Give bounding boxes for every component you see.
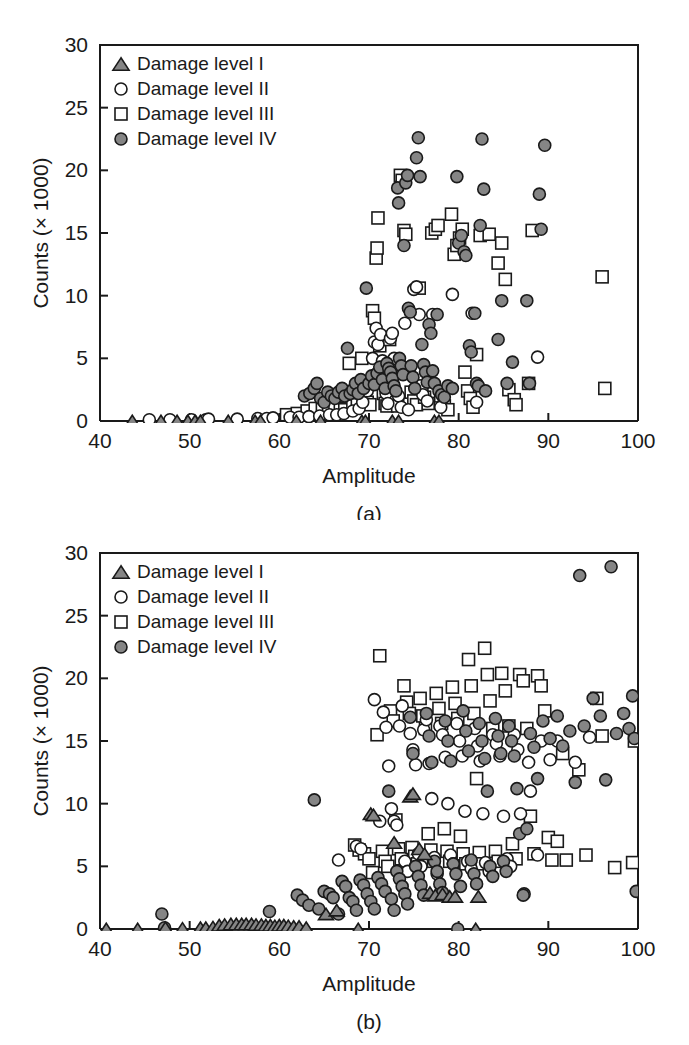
data-point-circle-filled-gray xyxy=(544,732,556,744)
x-tick-label: 100 xyxy=(620,429,655,452)
data-point-circle-filled-gray xyxy=(360,282,372,294)
data-point-circle-open xyxy=(115,591,127,603)
data-point-square-open xyxy=(484,695,496,707)
y-tick-label: 20 xyxy=(65,158,88,181)
x-tick-label: 60 xyxy=(268,937,291,960)
legend-item-3: Damage level III xyxy=(115,611,274,632)
data-point-square-open xyxy=(430,687,442,699)
legend-item-2: Damage level II xyxy=(115,586,269,607)
data-point-circle-filled-gray xyxy=(390,385,402,397)
y-tick-label: 5 xyxy=(76,854,88,877)
x-tick-label: 40 xyxy=(88,429,111,452)
legend-item-4: Damage level IV xyxy=(115,128,277,149)
data-point-circle-open xyxy=(333,854,345,866)
data-point-square-open xyxy=(471,773,483,785)
legend-label: Damage level III xyxy=(137,103,274,124)
data-point-circle-filled-gray xyxy=(465,346,477,358)
data-point-circle-filled-gray xyxy=(557,740,569,752)
data-point-square-open xyxy=(422,828,434,840)
data-point-square-open xyxy=(627,857,639,869)
y-tick-label: 25 xyxy=(65,96,88,119)
data-point-circle-filled-gray xyxy=(368,903,380,915)
data-point-circle-filled-gray xyxy=(528,741,540,753)
legend-item-1: Damage level I xyxy=(113,53,264,74)
data-point-circle-open xyxy=(410,759,422,771)
data-point-circle-open xyxy=(442,798,454,810)
data-point-square-open xyxy=(414,692,426,704)
data-point-circle-filled-gray xyxy=(431,865,443,877)
data-point-circle-open xyxy=(402,404,414,416)
data-point-square-open xyxy=(479,642,491,654)
data-point-triangle-filled-gray xyxy=(471,891,486,902)
data-point-triangle-filled-gray xyxy=(113,566,129,578)
data-point-circle-filled-gray xyxy=(511,783,523,795)
legend-item-4: Damage level IV xyxy=(115,636,277,657)
y-tick-label: 30 xyxy=(65,33,88,56)
legend-label: Damage level II xyxy=(137,586,269,607)
data-point-circle-open xyxy=(524,785,536,797)
data-point-square-open xyxy=(596,730,608,742)
data-point-square-open xyxy=(371,242,383,254)
legend-item-3: Damage level III xyxy=(115,103,274,124)
data-point-square-open xyxy=(446,681,458,693)
data-point-circle-open xyxy=(380,721,392,733)
data-point-circle-filled-gray xyxy=(476,735,488,747)
data-point-square-open xyxy=(517,675,529,687)
data-point-circle-filled-gray xyxy=(426,756,438,768)
y-axis-title: Counts (× 1000) xyxy=(29,665,52,816)
data-point-circle-filled-gray xyxy=(594,710,606,722)
data-point-circle-open xyxy=(459,805,471,817)
data-point-circle-open xyxy=(477,808,489,820)
data-point-square-open xyxy=(433,702,445,714)
scatter-plot-a: 405060708090100051015202530AmplitudeCoun… xyxy=(0,0,689,520)
legend: Damage level IDamage level IIDamage leve… xyxy=(113,561,277,657)
data-point-square-open xyxy=(372,212,384,224)
panel-a: 405060708090100051015202530AmplitudeCoun… xyxy=(0,0,689,520)
data-point-circle-filled-gray xyxy=(480,385,492,397)
data-point-circle-filled-gray xyxy=(521,295,533,307)
data-point-circle-open xyxy=(569,756,581,768)
data-point-circle-open xyxy=(532,351,544,363)
data-point-circle-filled-gray xyxy=(425,327,437,339)
data-point-circle-filled-gray xyxy=(551,710,563,722)
data-point-circle-filled-gray xyxy=(445,755,457,767)
data-point-circle-filled-gray xyxy=(503,720,515,732)
data-point-circle-filled-gray xyxy=(630,885,642,897)
data-point-circle-filled-gray xyxy=(479,753,491,765)
data-point-square-open xyxy=(481,669,493,681)
data-point-circle-filled-gray xyxy=(402,898,414,910)
data-point-circle-open xyxy=(355,843,367,855)
x-tick-label: 70 xyxy=(357,429,380,452)
data-point-circle-filled-gray xyxy=(605,561,617,573)
data-point-circle-open xyxy=(143,414,155,426)
data-point-square-open xyxy=(492,257,504,269)
data-point-circle-filled-gray xyxy=(564,725,576,737)
data-point-circle-filled-gray xyxy=(618,707,630,719)
data-point-square-open xyxy=(465,680,477,692)
data-point-circle-filled-gray xyxy=(340,880,352,892)
plot-frame xyxy=(100,45,638,421)
data-point-circle-filled-gray xyxy=(442,735,454,747)
data-point-square-open xyxy=(445,208,457,220)
data-point-circle-open xyxy=(231,413,243,425)
data-point-circle-filled-gray xyxy=(450,868,462,880)
data-point-circle-filled-gray xyxy=(416,339,428,351)
data-point-circle-filled-gray xyxy=(610,727,622,739)
data-point-circle-filled-gray xyxy=(476,133,488,145)
x-tick-label: 50 xyxy=(178,429,201,452)
data-point-circle-filled-gray xyxy=(487,870,499,882)
data-point-circle-filled-gray xyxy=(407,371,419,383)
data-point-square-open xyxy=(343,357,355,369)
legend-label: Damage level III xyxy=(137,611,274,632)
data-point-circle-open xyxy=(471,396,483,408)
data-point-circle-filled-gray xyxy=(409,382,421,394)
data-point-circle-filled-gray xyxy=(460,725,472,737)
data-points-group xyxy=(125,132,611,427)
data-point-square-open xyxy=(463,654,475,666)
data-point-circle-filled-gray xyxy=(457,705,469,717)
x-tick-label: 80 xyxy=(447,429,470,452)
y-tick-label: 5 xyxy=(76,346,88,369)
data-point-circle-filled-gray xyxy=(405,360,417,372)
x-tick-label: 90 xyxy=(537,429,560,452)
data-point-circle-filled-gray xyxy=(524,377,536,389)
